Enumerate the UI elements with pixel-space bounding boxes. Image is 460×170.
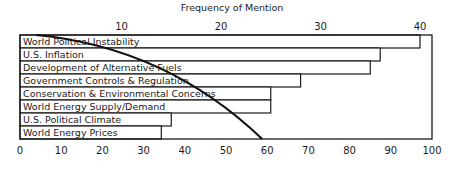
bar-label: U.S. Political Climate: [23, 114, 121, 125]
bar-label: Conservation & Environmental Concerns: [23, 88, 216, 99]
bars: World Political InstabilityU.S. Inflatio…: [20, 35, 420, 139]
top-tick-label: 30: [314, 21, 327, 32]
bottom-tick-label: 0: [17, 145, 23, 156]
bottom-tick-label: 60: [261, 145, 274, 156]
bottom-tick-label: 70: [302, 145, 315, 156]
bottom-tick-label: 30: [137, 145, 150, 156]
chart-title: Frequency of Mention: [181, 2, 284, 13]
top-tick-label: 40: [414, 21, 427, 32]
bottom-tick-label: 20: [96, 145, 109, 156]
bottom-tick-label: 80: [343, 145, 356, 156]
bar-label: Government Controls & Regulation: [23, 75, 189, 86]
top-tick-label: 10: [115, 21, 128, 32]
bar-label: U.S. Inflation: [23, 49, 84, 60]
frequency-of-mention-chart: Frequency of Mention 10203040 World Poli…: [0, 0, 460, 170]
bar-label: World Energy Supply/Demand: [23, 101, 165, 112]
top-axis-ticks: 10203040: [115, 21, 426, 32]
bottom-tick-label: 90: [384, 145, 397, 156]
bottom-tick-label: 100: [422, 145, 441, 156]
bottom-tick-label: 40: [178, 145, 191, 156]
top-tick-label: 20: [215, 21, 228, 32]
bar-label: World Energy Prices: [23, 127, 118, 138]
bottom-tick-label: 10: [55, 145, 68, 156]
bottom-tick-label: 50: [220, 145, 233, 156]
bottom-axis-ticks: 0102030405060708090100: [17, 145, 442, 156]
